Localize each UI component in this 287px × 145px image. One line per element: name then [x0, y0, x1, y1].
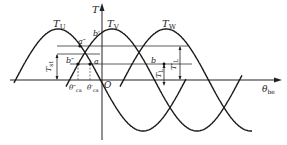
torque-waveform-diagram: T O θbe TU TV TW a″ b″ a b′ b θ″ca θ′ca …: [0, 0, 287, 145]
tst-label: Tst: [44, 61, 54, 72]
theta-ca-prime-label: θ′ca: [87, 84, 99, 93]
tl-prime-label-group: T′L: [169, 59, 179, 70]
point-b-double-prime: [76, 62, 79, 65]
arrow-down-icon: [179, 76, 182, 80]
arrow-down-icon: [56, 76, 59, 80]
label-a: a: [94, 57, 99, 66]
theta-axis-arrow-icon: [274, 78, 282, 83]
point-a: [88, 62, 91, 65]
torque-axis-label: T: [92, 4, 100, 15]
label-b-double-prime: b″: [66, 56, 74, 65]
label-a-double-prime: a″: [78, 37, 86, 46]
point-b: [163, 63, 166, 66]
arrow-up-icon: [179, 46, 182, 50]
theta-ca-double-prime-label: θ″ca: [69, 84, 82, 93]
tl-prime-label: T′L: [169, 59, 179, 70]
theta-axis-label: θbe: [262, 84, 275, 95]
tst-label-group: Tst: [44, 61, 54, 72]
arrow-down-icon: [163, 82, 166, 86]
label-b-prime: b′: [93, 29, 100, 38]
diagram-svg: T O θbe TU TV TW a″ b″ a b′ b θ″ca θ′ca …: [0, 0, 287, 145]
tl-label: TL: [154, 69, 164, 78]
origin-label: O: [104, 80, 112, 90]
arrow-up-icon: [56, 54, 59, 58]
torque-axis-arrow-icon: [100, 3, 105, 11]
label-b: b: [151, 56, 156, 65]
tl-label-group: TL: [154, 69, 164, 78]
